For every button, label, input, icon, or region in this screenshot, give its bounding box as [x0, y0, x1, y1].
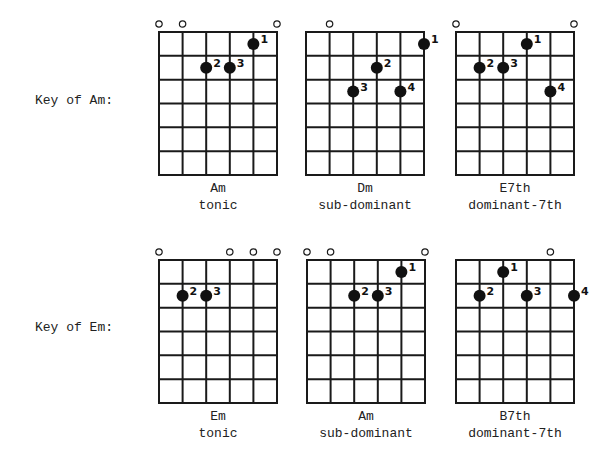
finger-number: 2: [384, 57, 392, 70]
finger-number: 1: [534, 33, 542, 46]
open-string-icon: [326, 21, 332, 27]
open-string-icon: [571, 21, 577, 27]
finger-dot-icon: [497, 62, 509, 74]
fretboard-grid: 123: [307, 260, 425, 403]
finger-dot-icon: [474, 290, 486, 302]
fretboard-grid: 123: [159, 32, 277, 175]
finger-number: 3: [360, 81, 368, 94]
finger-dot-icon: [372, 290, 384, 302]
finger-dot-icon: [474, 62, 486, 74]
finger-number: 1: [431, 33, 439, 46]
fretboard-grid: 1234: [306, 32, 424, 175]
finger-number: 3: [510, 57, 518, 70]
finger-number: 2: [487, 57, 495, 70]
open-string-icon: [274, 249, 280, 255]
finger-dot-icon: [371, 62, 383, 74]
finger-dot-icon: [544, 86, 556, 98]
finger-dot-icon: [418, 38, 430, 50]
finger-number: 2: [487, 285, 495, 298]
finger-dot-icon: [347, 86, 359, 98]
fretboard-grid: 1234: [456, 32, 574, 175]
open-string-icon: [156, 249, 162, 255]
finger-dot-icon: [177, 290, 189, 302]
chord-name: B7th: [445, 408, 585, 425]
open-string-icon: [156, 21, 162, 27]
finger-dot-icon: [521, 290, 533, 302]
finger-number: 3: [213, 285, 221, 298]
finger-number: 3: [385, 285, 393, 298]
finger-dot-icon: [247, 38, 259, 50]
finger-number: 3: [534, 285, 542, 298]
fretboard-grid: 23: [159, 260, 277, 403]
open-string-icon: [250, 249, 256, 255]
finger-number: 4: [581, 285, 589, 298]
chord-function: sub-dominant: [295, 197, 435, 214]
chord-function: tonic: [148, 425, 288, 442]
chord-name: E7th: [445, 180, 585, 197]
finger-dot-icon: [395, 266, 407, 278]
finger-dot-icon: [521, 38, 533, 50]
finger-number: 1: [260, 33, 268, 46]
finger-number: 3: [237, 57, 245, 70]
finger-number: 1: [408, 261, 416, 274]
chord-name: Am: [296, 408, 436, 425]
open-string-icon: [453, 21, 459, 27]
fretboard-grid: 1234: [456, 260, 574, 403]
key-label-em: Key of Em:: [35, 320, 113, 335]
finger-number: 4: [557, 81, 565, 94]
finger-number: 4: [407, 81, 415, 94]
finger-dot-icon: [568, 290, 580, 302]
open-string-icon: [274, 21, 280, 27]
finger-number: 2: [190, 285, 198, 298]
finger-number: 2: [361, 285, 369, 298]
chord-function: dominant-7th: [445, 197, 585, 214]
chord-name: Am: [148, 180, 288, 197]
open-string-icon: [179, 21, 185, 27]
open-string-icon: [422, 249, 428, 255]
finger-dot-icon: [348, 290, 360, 302]
finger-dot-icon: [200, 62, 212, 74]
chord-name: Em: [148, 408, 288, 425]
chord-function: sub-dominant: [296, 425, 436, 442]
chord-function: tonic: [148, 197, 288, 214]
open-string-icon: [227, 249, 233, 255]
finger-dot-icon: [200, 290, 212, 302]
chord-name: Dm: [295, 180, 435, 197]
finger-dot-icon: [224, 62, 236, 74]
finger-dot-icon: [497, 266, 509, 278]
open-string-icon: [304, 249, 310, 255]
chord-function: dominant-7th: [445, 425, 585, 442]
key-label-am: Key of Am:: [35, 93, 113, 108]
open-string-icon: [327, 249, 333, 255]
finger-number: 2: [213, 57, 221, 70]
finger-number: 1: [510, 261, 518, 274]
open-string-icon: [547, 249, 553, 255]
finger-dot-icon: [394, 86, 406, 98]
